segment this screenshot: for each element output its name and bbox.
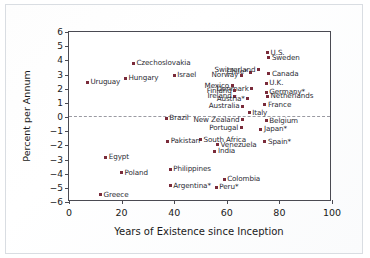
data-point-marker (99, 193, 102, 196)
y-axis-tick (65, 145, 69, 146)
data-point-marker (213, 150, 216, 153)
data-point-label: Egypt (109, 154, 129, 162)
data-point-marker (259, 128, 262, 131)
data-point-marker (169, 184, 172, 187)
data-point-marker (257, 68, 260, 71)
y-axis-tick (65, 75, 69, 76)
y-axis-tick (65, 188, 69, 189)
data-point-marker (223, 178, 226, 181)
data-point-label: India (218, 147, 235, 155)
data-point-label: Brazil (169, 115, 188, 123)
data-point-label: France (268, 101, 291, 109)
x-axis-tick (122, 200, 123, 204)
x-axis-tick (174, 200, 175, 204)
data-point-marker (166, 140, 169, 143)
scatter-plot-figure: Percent per Annum Years of Existence sin… (0, 0, 370, 258)
data-point-marker (86, 81, 89, 84)
data-point-marker (241, 105, 244, 108)
data-point-marker (132, 62, 135, 65)
y-axis-tick (65, 89, 69, 90)
x-axis-tick-label: 0 (66, 207, 72, 218)
data-point-marker (250, 87, 253, 90)
data-point-marker (263, 103, 266, 106)
data-point-label: Belgium (269, 117, 298, 125)
data-point-marker (173, 74, 176, 77)
data-point-marker (265, 91, 268, 94)
data-point-label: Japan* (264, 125, 287, 133)
data-point-label: Pakistan (171, 137, 200, 145)
x-axis-title: Years of Existence since Inception (114, 226, 283, 237)
x-axis-tick (279, 200, 280, 204)
y-axis-tick (65, 117, 69, 118)
data-point-marker (165, 117, 168, 120)
data-point-label: Israel (177, 71, 196, 79)
data-point-marker (120, 171, 123, 174)
x-axis-tick-label: 80 (273, 207, 285, 218)
data-point-marker (233, 89, 236, 92)
x-axis-tick-label: 40 (168, 207, 180, 218)
data-point-marker (169, 168, 172, 171)
x-axis-tick (227, 200, 228, 204)
data-point-marker (215, 186, 218, 189)
y-axis-tick-label: −5 (50, 183, 63, 193)
data-point-label: Greece (104, 191, 129, 199)
data-point-label: Uruguay (90, 78, 120, 86)
y-axis-tick-label: −2 (50, 140, 63, 150)
y-axis-tick-label: −4 (50, 169, 63, 179)
data-point-label: Argentina* (173, 182, 211, 190)
x-axis-tick (69, 200, 70, 204)
y-axis-tick-label: −1 (50, 126, 63, 136)
data-point-marker (240, 126, 243, 129)
data-point-label: U.K. (269, 79, 283, 87)
data-point-marker (267, 72, 270, 75)
data-point-marker (265, 119, 268, 122)
data-point-marker (263, 140, 266, 143)
y-axis-tick-label: −6 (50, 197, 63, 207)
data-point-label: Peru* (219, 183, 238, 191)
y-axis-tick (65, 103, 69, 104)
plot-area: 6543210−1−2−3−4−5−6 020406080100 Uruguay… (68, 31, 331, 201)
y-axis-tick-label: 3 (57, 70, 63, 80)
x-axis-tick (332, 200, 333, 204)
data-point-label: Sweden (272, 54, 300, 62)
data-point-marker (267, 56, 270, 59)
data-point-marker (104, 156, 107, 159)
data-point-label: Portugal (209, 124, 238, 132)
y-axis-tick (65, 32, 69, 33)
data-point-label: Hungary (129, 74, 159, 82)
data-point-label: Italy (252, 109, 267, 117)
data-point-label: Netherlands (271, 93, 314, 101)
data-point-marker (241, 118, 244, 121)
data-point-label: Philippines (173, 166, 211, 174)
data-point-label: Switzerland (215, 66, 256, 74)
y-axis-tick-label: −3 (50, 155, 63, 165)
data-point-marker (266, 95, 269, 98)
x-axis-tick-label: 20 (116, 207, 128, 218)
data-point-marker (124, 77, 127, 80)
data-point-label: Australia (209, 103, 240, 111)
y-axis-tick-label: 1 (57, 98, 63, 108)
y-axis-tick-label: 5 (57, 41, 63, 51)
y-axis-tick (65, 174, 69, 175)
y-axis-title: Percent per Annum (21, 70, 32, 161)
y-axis-tick-label: 0 (57, 112, 63, 122)
data-point-label: Poland (125, 169, 148, 177)
y-axis-tick (65, 131, 69, 132)
y-axis-tick-label: 2 (57, 84, 63, 94)
data-point-label: Spain* (268, 138, 291, 146)
data-point-marker (265, 82, 268, 85)
y-axis-tick-label: 6 (57, 27, 63, 37)
y-axis-tick (65, 160, 69, 161)
y-axis-tick-label: 4 (57, 55, 63, 65)
data-point-label: Canada (272, 70, 299, 78)
data-point-marker (246, 97, 249, 100)
data-point-marker (248, 111, 251, 114)
data-point-label: Czechoslovakia (136, 59, 190, 67)
y-axis-tick (65, 60, 69, 61)
y-axis-tick (65, 46, 69, 47)
data-point-marker (266, 51, 269, 54)
x-axis-tick-label: 100 (323, 207, 341, 218)
x-axis-tick-label: 60 (221, 207, 233, 218)
